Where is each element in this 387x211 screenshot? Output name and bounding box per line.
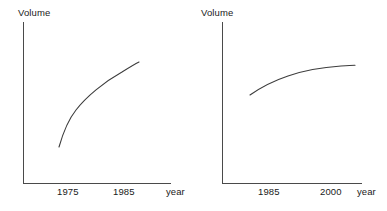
chart-panel-left: Volume 1975 1985 year	[0, 0, 193, 211]
x-tick-label-left-0: 1975	[57, 186, 79, 197]
x-axis-title-right: year	[357, 186, 376, 197]
x-tick-label-right-1: 2000	[320, 186, 342, 197]
two-panel-line-chart-figure: Volume 1975 1985 year Volume 1985 2000 y…	[0, 0, 387, 211]
x-tick-label-right-0: 1985	[258, 186, 280, 197]
data-curve-right	[193, 0, 387, 211]
data-curve-left	[0, 0, 193, 211]
chart-panel-right: Volume 1985 2000 year	[193, 0, 387, 211]
x-tick-label-left-1: 1985	[113, 186, 135, 197]
x-axis-title-left: year	[166, 186, 185, 197]
